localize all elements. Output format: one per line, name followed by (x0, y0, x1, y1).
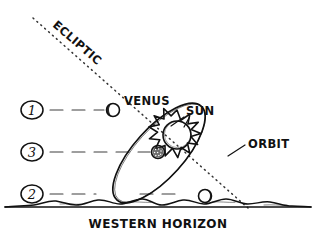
sun-label: SUN (186, 104, 214, 118)
ecliptic-label-group: ECLIPTIC (50, 18, 105, 68)
ecliptic-line (33, 18, 248, 208)
marker-1-label: 1 (28, 103, 36, 118)
position-markers-group: 1 3 2 (21, 101, 43, 203)
horizon-group: WESTERN HORIZON (5, 199, 311, 231)
ecliptic-line-group (33, 18, 248, 208)
ecliptic-label: ECLIPTIC (50, 18, 105, 68)
planet-position-2-group (199, 190, 212, 203)
venus-orbit-diagram: 1 3 2 ECLIPTIC VENUS (0, 0, 316, 242)
horizon-label: WESTERN HORIZON (89, 217, 228, 231)
orbit-leader-line (228, 145, 245, 156)
marker-2-label: 2 (27, 187, 36, 202)
sun-disc-sketch-overlay (164, 121, 190, 147)
orbit-label: ORBIT (248, 137, 290, 151)
marker-2-group[interactable]: 2 (21, 185, 43, 203)
planet-venus-group (107, 104, 120, 117)
planet-position-3-group (152, 146, 165, 159)
venus-label-group: VENUS (124, 94, 170, 108)
venus-label: VENUS (124, 94, 170, 108)
marker-1-group[interactable]: 1 (21, 101, 43, 119)
horizon-hills (5, 199, 311, 207)
diagram-canvas: 1 3 2 ECLIPTIC VENUS (0, 0, 316, 242)
marker-3-label: 3 (28, 145, 36, 160)
orbit-label-group: ORBIT (228, 137, 290, 156)
marker-3-group[interactable]: 3 (21, 143, 43, 161)
